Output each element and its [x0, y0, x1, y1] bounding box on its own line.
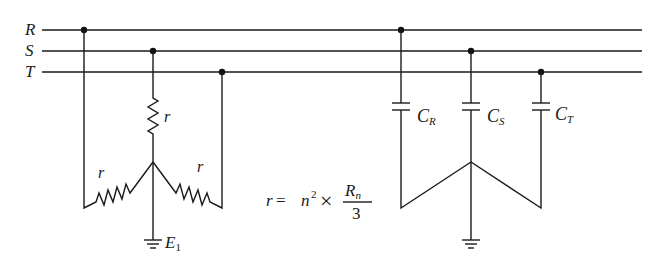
resistor-right: [153, 72, 222, 208]
bus-lines: [42, 30, 642, 72]
resistor-left-label: r: [98, 164, 105, 181]
bus-label-r: R: [24, 20, 36, 39]
formula-denominator: 3: [352, 204, 361, 223]
resistor-top: [148, 51, 158, 162]
capacitor-ct-label: CT: [555, 104, 574, 125]
circuit-diagram: R S T r r r E1 r = n 2: [0, 0, 669, 275]
resistor-top-label: r: [164, 108, 171, 125]
formula: r = n 2 × Rn 3: [266, 181, 372, 223]
resistor-star-network: r r r E1: [81, 27, 225, 253]
bus-label-s: S: [25, 41, 34, 60]
bus-label-t: T: [25, 62, 36, 81]
formula-power: 2: [311, 188, 317, 200]
capacitor-ct: [471, 72, 550, 208]
capacitor-cr-label: CR: [417, 106, 436, 127]
capacitor-star-network: CR CS CT: [392, 27, 574, 248]
formula-times: ×: [320, 188, 332, 213]
formula-equals: =: [276, 191, 286, 210]
ground-label-e1: E1: [164, 233, 181, 253]
capacitor-cs-label: CS: [487, 106, 505, 127]
resistor-left: [84, 30, 153, 208]
formula-numerator: Rn: [344, 181, 361, 201]
resistor-right-label: r: [197, 158, 204, 175]
ground-icon: [462, 240, 480, 248]
formula-n: n: [301, 191, 310, 210]
ground-icon: [144, 240, 162, 248]
capacitor-cs: [462, 51, 480, 240]
formula-lhs: r: [266, 191, 273, 210]
